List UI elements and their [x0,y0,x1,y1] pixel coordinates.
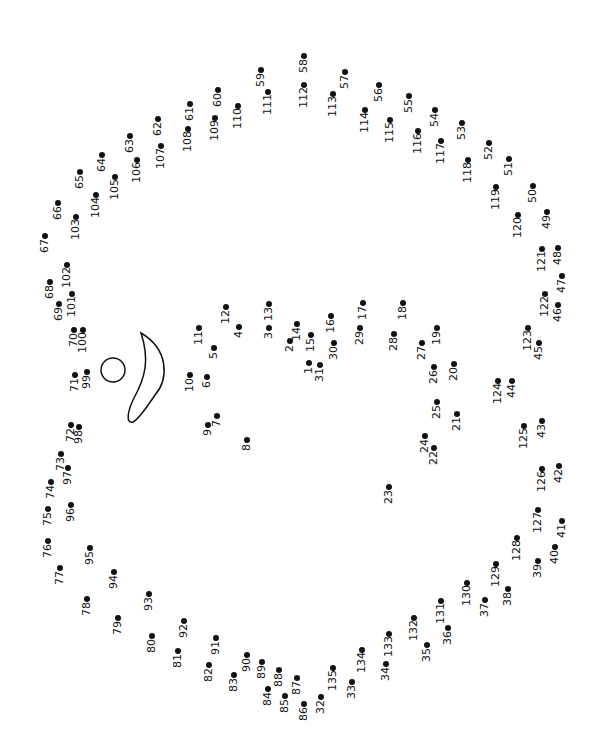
dot-label: 83 [228,678,239,692]
dot-label: 21 [451,417,462,431]
dot-label: 129 [490,566,501,587]
dot-label: 12 [220,310,231,324]
dot-label: 89 [256,665,267,679]
dot-label: 8 [241,444,252,451]
dot-label: 80 [146,639,157,653]
dot-label: 103 [70,219,81,240]
dot-label: 22 [428,451,439,465]
dot-label: 19 [431,331,442,345]
dot-label: 2 [284,345,295,352]
dot-label: 95 [84,551,95,565]
dot-label: 79 [112,621,123,635]
dot-label: 39 [532,564,543,578]
dot-label: 109 [209,120,220,141]
dot-label: 112 [298,87,309,108]
dot-label: 51 [503,162,514,176]
dot-label: 47 [556,279,567,293]
eye-circle [101,358,125,382]
dot-label: 46 [552,308,563,322]
dot-label: 53 [456,126,467,140]
dot-label: 54 [429,113,440,127]
dot-label: 97 [62,471,73,485]
dot-label: 57 [339,75,350,89]
dot-label: 56 [373,88,384,102]
dot-label: 134 [356,652,367,673]
dot-label: 61 [184,107,195,121]
dot-label: 33 [346,685,357,699]
dot-label: 119 [490,189,501,210]
dot-label: 63 [124,139,135,153]
dot-label: 124 [492,383,503,404]
dot-label: 96 [65,508,76,522]
crescent-shape [128,333,164,422]
dot-label: 4 [233,331,244,338]
dot-label: 76 [42,544,53,558]
dot-label: 105 [109,179,120,200]
dot-label: 27 [416,346,427,360]
dot-label: 34 [380,667,391,681]
dot-label: 122 [539,296,550,317]
dot-label: 91 [210,641,221,655]
dot-label: 106 [131,162,142,183]
dot-label: 77 [54,571,65,585]
dot-label: 113 [327,96,338,117]
dot-5 [211,345,217,351]
dot-label: 117 [435,143,446,164]
dot-label: 14 [291,327,302,341]
dot-label: 114 [359,112,370,133]
dot-9 [205,422,211,428]
dot-label: 131 [435,603,446,624]
dot-label: 52 [483,146,494,160]
dot-label: 67 [39,239,50,253]
dot-label: 65 [74,175,85,189]
dot-label: 38 [502,592,513,606]
dot-label: 60 [212,93,223,107]
dot-label: 82 [203,668,214,682]
dot-label: 125 [518,428,529,449]
dot-label: 69 [53,307,64,321]
dot-label: 49 [541,215,552,229]
dot-label: 6 [201,381,212,388]
dot-label: 41 [556,524,567,538]
dot-label: 28 [388,337,399,351]
dot-label: 84 [262,692,273,706]
dot-label: 98 [73,430,84,444]
dot-label: 45 [533,346,544,360]
dot-label: 26 [428,370,439,384]
dot-label: 116 [412,133,423,154]
dot-label: 58 [298,59,309,73]
dot-label: 74 [45,485,56,499]
dot-label: 64 [96,158,107,172]
dot-3 [266,325,272,331]
dot-label: 37 [479,603,490,617]
dot-label: 18 [397,306,408,320]
dot-label: 127 [532,512,543,533]
dot-label: 48 [552,251,563,265]
dot-label: 36 [442,631,453,645]
dot-label: 9 [202,429,213,436]
dot-8 [244,437,250,443]
dot-label: 13 [263,307,274,321]
dot-label: 40 [549,550,560,564]
dot-label: 107 [155,148,166,169]
dot-label: 30 [328,346,339,360]
dot-label: 62 [152,122,163,136]
dot-label: 120 [512,217,523,238]
dot-label: 126 [536,471,547,492]
dot-label: 94 [108,575,119,589]
dot-label: 11 [193,331,204,345]
dot-label: 101 [66,296,77,317]
dot-7 [214,413,220,419]
dot-1 [306,360,312,366]
dot-label: 42 [553,469,564,483]
dot-label: 99 [81,375,92,389]
dot-label: 132 [408,620,419,641]
dot-label: 75 [42,512,53,526]
dot-to-dot-sheet: 1234567891011121314151617181920212223242… [0,0,611,745]
dot-label: 93 [143,597,154,611]
dot-label: 31 [314,368,325,382]
dot-label: 50 [527,189,538,203]
dot-label: 29 [354,331,365,345]
dot-label: 128 [511,540,522,561]
dot-label: 24 [419,439,430,453]
